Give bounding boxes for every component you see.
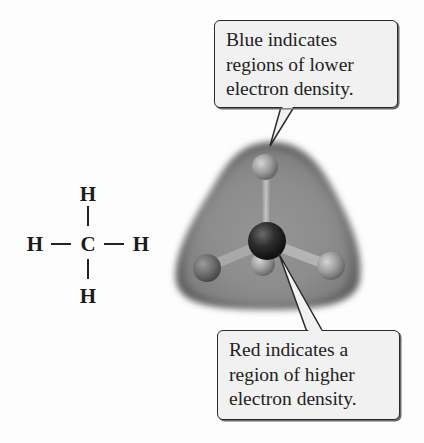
hydrogen-atom-left [193,254,221,282]
callout-text-line: regions of lower [226,53,397,78]
carbon-atom [248,222,286,260]
callout-red-higher-density: Red indicates a region of higher electro… [217,330,400,420]
hydrogen-atom-top [252,154,278,180]
callout-blue-lower-density: Blue indicates regions of lower electron… [214,20,398,108]
callout-text-line: Blue indicates [226,28,397,53]
callout-text-line: electron density. [229,387,399,412]
hydrogen-atom-right [317,252,345,280]
callout-text-line: electron density. [226,77,397,102]
callout-text-line: Red indicates a [229,338,399,363]
callout-text-line: region of higher [229,363,399,388]
